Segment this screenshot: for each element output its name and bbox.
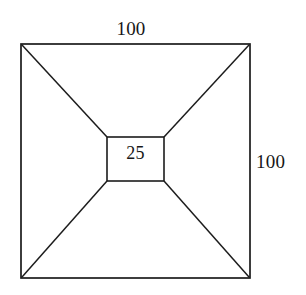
inner-square-dimension-label: 25 — [107, 144, 164, 162]
bottom-right-diagonal — [164, 181, 249, 277]
right-side-dimension-label: 100 — [256, 152, 285, 171]
top-left-diagonal — [22, 45, 107, 137]
figure-canvas: 100 100 25 — [0, 0, 306, 295]
top-right-diagonal — [164, 45, 249, 137]
bottom-left-diagonal — [22, 181, 107, 277]
top-side-dimension-label: 100 — [0, 19, 262, 38]
